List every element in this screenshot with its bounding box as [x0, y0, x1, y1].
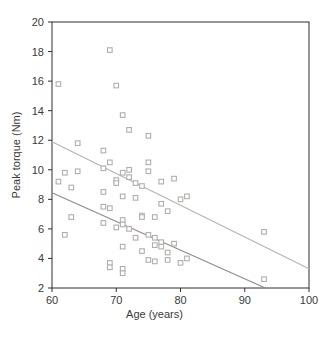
data-point	[63, 170, 68, 175]
data-point	[165, 209, 170, 214]
y-tick-label: 2	[38, 282, 44, 294]
data-point	[133, 181, 138, 186]
data-point	[146, 258, 151, 263]
data-point	[133, 196, 138, 201]
data-point	[165, 250, 170, 255]
y-tick-label: 12	[32, 134, 44, 146]
data-point	[120, 271, 125, 276]
scatter-chart: 607080901002468101214161820	[0, 0, 331, 341]
x-axis-title: Age (years)	[0, 308, 309, 320]
data-point	[153, 235, 158, 240]
data-point	[140, 249, 145, 254]
data-point	[146, 169, 151, 174]
x-tick-label: 80	[174, 294, 186, 306]
data-point	[108, 48, 113, 53]
data-point	[165, 258, 170, 263]
data-point	[101, 166, 106, 171]
data-point	[262, 277, 267, 282]
data-point	[120, 194, 125, 199]
data-point	[101, 148, 106, 153]
data-point	[69, 215, 74, 220]
data-point	[153, 259, 158, 264]
data-point	[146, 233, 151, 238]
data-point	[172, 176, 177, 181]
y-tick-label: 18	[32, 46, 44, 58]
x-tick-label: 60	[46, 294, 58, 306]
data-point	[120, 170, 125, 175]
data-point	[108, 206, 113, 211]
data-point	[101, 221, 106, 226]
scatter-figure: 607080901002468101214161820 Age (years) …	[0, 0, 331, 341]
data-point	[56, 82, 61, 87]
data-point	[127, 175, 132, 180]
y-tick-label: 20	[32, 16, 44, 28]
y-tick-label: 8	[38, 193, 44, 205]
data-point	[120, 113, 125, 118]
data-point	[75, 141, 80, 146]
data-point	[127, 167, 132, 172]
data-point	[153, 243, 158, 248]
data-point	[146, 160, 151, 165]
y-tick-label: 6	[38, 223, 44, 235]
data-point	[114, 181, 119, 186]
data-point	[172, 241, 177, 246]
data-point	[262, 230, 267, 235]
data-point	[159, 244, 164, 249]
data-point	[159, 201, 164, 206]
data-point	[185, 194, 190, 199]
plot-frame	[52, 22, 309, 288]
data-point	[114, 83, 119, 88]
data-point	[120, 222, 125, 227]
data-point	[127, 227, 132, 232]
y-tick-label: 10	[32, 164, 44, 176]
data-point	[133, 235, 138, 240]
data-point	[108, 265, 113, 270]
x-tick-label: 100	[300, 294, 318, 306]
data-point	[63, 233, 68, 238]
y-tick-label: 14	[32, 105, 44, 117]
data-point	[178, 197, 183, 202]
y-axis-title: Peak torque (Nm)	[10, 85, 22, 225]
data-point	[178, 261, 183, 266]
data-point	[101, 190, 106, 195]
data-point	[159, 179, 164, 184]
data-point	[101, 204, 106, 209]
data-point	[146, 133, 151, 138]
data-point	[56, 179, 61, 184]
data-point	[69, 185, 74, 190]
data-point	[153, 215, 158, 220]
data-point	[127, 128, 132, 133]
data-point	[120, 244, 125, 249]
x-tick-label: 90	[239, 294, 251, 306]
data-point	[140, 215, 145, 220]
data-point	[75, 169, 80, 174]
y-tick-label: 4	[38, 252, 44, 264]
data-point	[114, 225, 119, 230]
data-point	[108, 160, 113, 165]
x-tick-label: 70	[110, 294, 122, 306]
y-tick-label: 16	[32, 75, 44, 87]
data-point	[140, 184, 145, 189]
data-point	[185, 256, 190, 261]
